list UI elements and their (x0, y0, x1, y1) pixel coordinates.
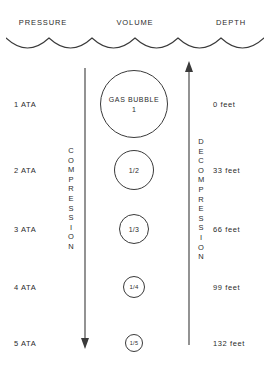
gas-bubble-volume-2: 1/2 (129, 167, 140, 174)
depth-value-1: 0 feet (213, 100, 269, 109)
gas-bubble-volume-5: 1/5 (130, 340, 139, 346)
gas-bubble-3: 1/3 (119, 214, 149, 244)
compression-vertical-label: COMPRESSION (65, 146, 77, 252)
depth-value-2: 33 feet (213, 166, 269, 175)
pressure-value-5: 5 ATA (14, 339, 72, 348)
gas-bubble-volume-1: 1 (132, 106, 136, 113)
decompression-arrow-icon (185, 61, 193, 345)
gas-bubble-5: 1/5 (125, 334, 143, 352)
pressure-volume-depth-diagram: PRESSURE VOLUME DEPTH COMPRESSION DECOMP… (0, 0, 271, 371)
pressure-value-2: 2 ATA (14, 166, 72, 175)
decompression-vertical-label: DECOMPRESSION (195, 137, 207, 262)
depth-value-3: 66 feet (213, 225, 269, 234)
gas-bubble-1: GAS BUBBLE 1 (100, 70, 168, 138)
gas-bubble-2: 1/2 (114, 150, 154, 190)
compression-arrow-icon (81, 68, 89, 349)
pressure-value-4: 4 ATA (14, 283, 72, 292)
pressure-value-3: 3 ATA (14, 225, 72, 234)
gas-bubble-volume-4: 1/4 (129, 284, 138, 290)
gas-bubble-caption: GAS BUBBLE (109, 96, 159, 103)
depth-value-5: 132 feet (213, 339, 269, 348)
gas-bubble-4: 1/4 (123, 276, 145, 298)
depth-value-4: 99 feet (213, 283, 269, 292)
gas-bubble-volume-3: 1/3 (129, 226, 140, 233)
pressure-value-1: 1 ATA (14, 100, 72, 109)
